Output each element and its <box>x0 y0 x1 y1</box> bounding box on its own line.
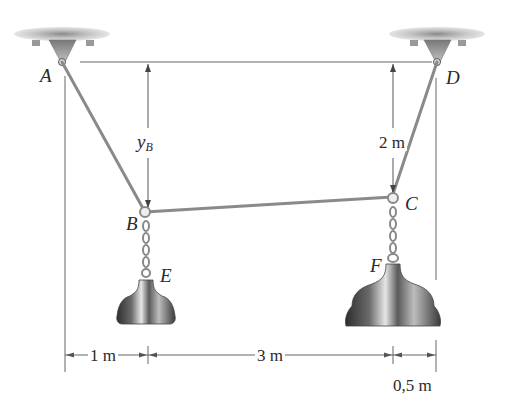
label-point-c: C <box>405 194 418 213</box>
cable-diagram: A D B C E F yB 2 m 1 m 3 m 0,5 m <box>0 0 507 416</box>
weight-e <box>117 280 176 324</box>
weight-f <box>345 264 440 326</box>
chain-b-e <box>140 207 150 277</box>
label-point-b: B <box>126 214 138 233</box>
label-1m: 1 m <box>88 347 118 364</box>
label-0-5m: 0,5 m <box>393 377 432 394</box>
extension-lines <box>65 76 436 372</box>
label-point-e: E <box>160 266 172 285</box>
label-2m: 2 m <box>377 134 407 151</box>
dimension-horizontal <box>65 353 436 358</box>
chain-c-f <box>388 193 398 262</box>
label-point-d: D <box>446 68 460 87</box>
label-point-a: A <box>40 66 52 85</box>
support-d <box>389 27 485 66</box>
dimension-2m <box>390 64 396 193</box>
label-3m: 3 m <box>255 347 285 364</box>
support-a <box>14 27 110 66</box>
label-yb-sub: B <box>145 140 152 154</box>
label-point-f: F <box>370 256 382 275</box>
label-yb: yB <box>137 132 153 153</box>
